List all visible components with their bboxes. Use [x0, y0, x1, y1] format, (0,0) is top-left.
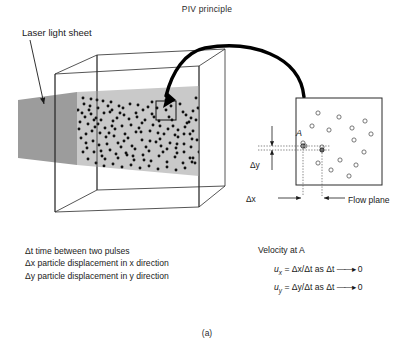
laser-light-sheet-slab: [18, 92, 77, 165]
velocity-block: Velocity at A ux = Δx/Δt as Δt ——▸ 0 uy …: [258, 245, 362, 297]
velocity-equations: ux = Δx/Δt as Δt ——▸ 0 uy = Δy/Δt as Δt …: [274, 262, 362, 297]
flow-plane-label: Flow plane: [348, 195, 390, 205]
legend-item: Δx particle displacement in x direction: [25, 257, 169, 269]
right-arrow-icon: ——▸: [337, 282, 356, 292]
figure-caption: (a): [0, 328, 414, 338]
eq-subscript: y: [279, 286, 282, 293]
flow-plane-box: [296, 98, 382, 185]
symbol-legend: Δt time between two pulses Δx particle d…: [25, 245, 169, 282]
delta-x-label: Δx: [246, 194, 256, 204]
right-arrow-icon: ——▸: [337, 264, 356, 274]
point-a-label: A: [296, 128, 302, 138]
legend-item: Δt time between two pulses: [25, 245, 169, 257]
eq-subscript: x: [279, 269, 282, 276]
laser-sheet-label: Laser light sheet: [22, 27, 92, 38]
diagram-canvas: [0, 0, 414, 353]
eq-limit: 0: [358, 282, 363, 292]
piv-principle-figure: PIV principle: [0, 0, 414, 353]
figure-title: PIV principle: [0, 4, 414, 14]
legend-item: Δy particle displacement in y direction: [25, 270, 169, 282]
laser-label-arrow: [30, 40, 44, 104]
equation-ux: ux = Δx/Δt as Δt ——▸ 0: [274, 262, 362, 280]
eq-expression: = Δy/Δt as Δt: [284, 282, 334, 292]
equation-uy: uy = Δy/Δt as Δt ——▸ 0: [274, 280, 362, 298]
velocity-heading: Velocity at A: [258, 245, 362, 255]
delta-y-label: Δy: [250, 160, 260, 170]
eq-expression: = Δx/Δt as Δt: [284, 264, 334, 274]
eq-limit: 0: [358, 264, 363, 274]
